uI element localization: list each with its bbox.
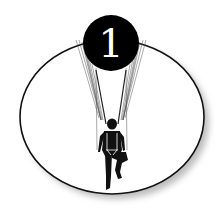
step-number: 1 [83,15,139,71]
parachute-illustration: 1 [0,0,224,216]
